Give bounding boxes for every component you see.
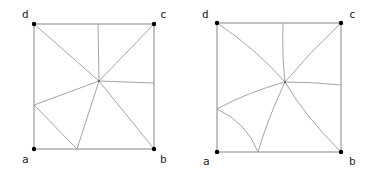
- label-d: d: [22, 8, 29, 21]
- label-c: c: [349, 8, 356, 21]
- edge-b-center: [99, 81, 154, 149]
- label-b: b: [349, 155, 356, 168]
- left-diagram: d c a b: [22, 8, 167, 166]
- edge-right-center: [99, 81, 154, 83]
- vertex-d: [32, 22, 36, 26]
- label-b: b: [160, 153, 167, 166]
- vertex-c: [152, 22, 156, 26]
- right-diagram: d c a b: [202, 8, 356, 168]
- label-a: a: [203, 155, 210, 168]
- vertex-c: [339, 21, 343, 25]
- curve-top-center: [283, 23, 285, 82]
- center-vertex: [98, 80, 100, 82]
- edge-left-center: [34, 81, 99, 105]
- edge-c-center: [99, 24, 154, 81]
- edge-left-bottom: [34, 105, 77, 149]
- curve-right-center: [285, 82, 341, 85]
- vertex-a: [215, 150, 219, 154]
- curve-d-center: [217, 23, 285, 82]
- edge-bottom-center: [77, 81, 99, 149]
- vertex-d: [215, 21, 219, 25]
- edge-top-center: [98, 24, 99, 81]
- curve-bottom-center: [258, 82, 285, 152]
- curve-b-center: [285, 82, 341, 152]
- center-vertex: [284, 81, 286, 83]
- label-d: d: [202, 8, 209, 21]
- edge-d-center: [34, 24, 99, 81]
- vertex-b: [152, 147, 156, 151]
- diagram-canvas: d c a b d c a b: [0, 0, 374, 172]
- curve-c-center: [285, 23, 341, 82]
- curve-left-bottom: [217, 109, 258, 152]
- label-c: c: [160, 8, 167, 21]
- label-a: a: [22, 153, 29, 166]
- vertex-b: [339, 150, 343, 154]
- vertex-a: [32, 147, 36, 151]
